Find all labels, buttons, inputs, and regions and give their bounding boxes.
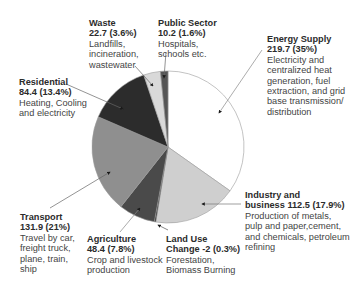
label-value: -2 (0.3%) <box>202 244 240 254</box>
label-title: Residential <box>19 77 87 87</box>
label-desc: Production of metals, <box>245 211 350 221</box>
label-desc: base transmission/ <box>267 96 345 106</box>
label-desc: pulp and paper,cement, <box>245 221 350 231</box>
label-agriculture: Agriculture 48.4 (7.8%) Crop and livesto… <box>87 234 163 276</box>
label-transport: Transport 131.9 (21%) Travel by car, fre… <box>20 212 75 274</box>
label-desc: centralized heat <box>267 65 345 75</box>
label-desc: freight truck, <box>20 243 75 253</box>
label-desc: plane, train, <box>20 254 75 264</box>
label-energy-supply: Energy Supply 219.7 (35%) Electricity an… <box>267 34 345 117</box>
label-value: 10.2 (1.6%) <box>158 28 217 38</box>
label-value: 131.9 (21%) <box>20 222 75 232</box>
label-desc: production <box>87 265 163 275</box>
pie-slices <box>92 71 244 223</box>
label-desc: Hospitals, <box>158 39 217 49</box>
label-value-line: business 112.5 (17.9%) <box>245 200 350 210</box>
label-title: Land Use <box>166 234 240 244</box>
label-desc: Landfills, <box>89 39 139 49</box>
label-waste: Waste 22.7 (3.6%) Landfills, incineratio… <box>89 18 139 70</box>
label-industry: Industry and business 112.5 (17.9%) Prod… <box>245 190 350 252</box>
label-desc: and electricity <box>19 108 87 118</box>
label-value: 112.5 (17.9%) <box>287 200 344 210</box>
label-land-use: Land Use Change -2 (0.3%) Forestation, B… <box>166 234 240 276</box>
label-desc: refining <box>245 242 350 252</box>
label-title-2: business <box>245 200 285 210</box>
label-title: Agriculture <box>87 234 163 244</box>
label-desc: incineration, <box>89 49 139 59</box>
arrow-land-use <box>158 225 168 230</box>
label-desc: Electricity and <box>267 55 345 65</box>
label-title: Industry and <box>245 190 350 200</box>
arrow-energy-supply <box>219 50 262 113</box>
label-value: 84.4 (13.4%) <box>19 87 87 97</box>
label-desc: generation, fuel <box>267 76 345 86</box>
label-title: Energy Supply <box>267 34 345 44</box>
label-title: Waste <box>89 18 139 28</box>
label-public-sector: Public Sector 10.2 (1.6%) Hospitals, sch… <box>158 18 217 60</box>
label-desc: Travel by car, <box>20 233 75 243</box>
label-desc: Crop and livestock <box>87 255 163 265</box>
label-desc: Heating, Cooling <box>19 98 87 108</box>
label-desc: Forestation, <box>166 255 240 265</box>
label-value-line: Change -2 (0.3%) <box>166 244 240 254</box>
label-desc: Biomass Burning <box>166 265 240 275</box>
label-value: 219.7 (35%) <box>267 44 345 54</box>
arrow-transport <box>50 172 110 208</box>
label-residential: Residential 84.4 (13.4%) Heating, Coolin… <box>19 77 87 119</box>
label-desc: schools etc. <box>158 49 217 59</box>
label-desc: extraction, and grid <box>267 86 345 96</box>
label-desc: distribution <box>267 107 345 117</box>
label-desc: wastewater <box>89 60 139 70</box>
label-title: Transport <box>20 212 75 222</box>
label-desc: ship <box>20 264 75 274</box>
label-title: Public Sector <box>158 18 217 28</box>
label-desc: and chemicals, petroleum <box>245 232 350 242</box>
label-value: 48.4 (7.8%) <box>87 244 163 254</box>
label-value: 22.7 (3.6%) <box>89 28 139 38</box>
label-title-2: Change <box>166 244 200 254</box>
